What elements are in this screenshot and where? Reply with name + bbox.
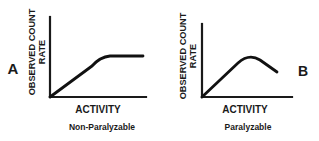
panel-a-ylabel-line2: RATE bbox=[37, 40, 47, 64]
panel-b-ylabel-line2: RATE bbox=[188, 44, 198, 68]
panel-b-caption: Paralyzable bbox=[225, 122, 272, 132]
panel-a-xlabel: ACTIVITY bbox=[75, 104, 121, 115]
panel-b-ylabel-line1: OBSERVED COUNT bbox=[178, 12, 188, 99]
panel-b: OBSERVED COUNT RATE B ACTIVITY Paralyzab… bbox=[178, 12, 308, 132]
panel-a-caption: Non-Paralyzable bbox=[69, 122, 135, 132]
panel-a-curve-non-paralyzable bbox=[50, 56, 143, 97]
dead-time-figure: A OBSERVED COUNT RATE ACTIVITY Non-Paral… bbox=[0, 0, 319, 141]
panel-a: A OBSERVED COUNT RATE ACTIVITY Non-Paral… bbox=[8, 8, 146, 132]
panel-b-letter: B bbox=[298, 63, 308, 79]
panel-b-curve-paralyzable bbox=[202, 57, 277, 97]
panel-a-ylabel-line1: OBSERVED COUNT bbox=[27, 8, 37, 95]
panel-b-xlabel: ACTIVITY bbox=[222, 104, 268, 115]
panel-a-letter: A bbox=[8, 60, 19, 77]
